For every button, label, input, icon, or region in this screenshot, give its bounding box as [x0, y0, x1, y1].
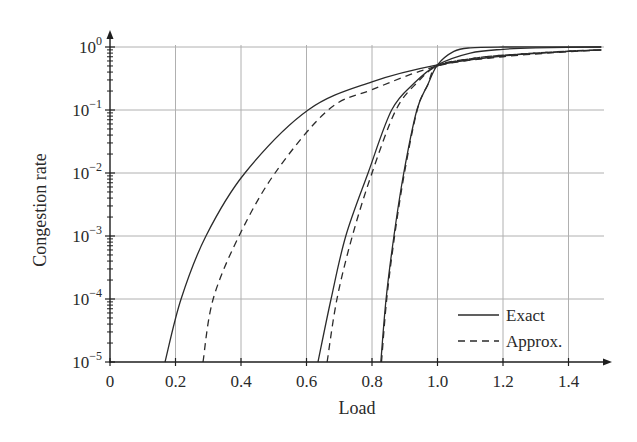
x-axis-ticks: 00.20.40.60.81.01.21.4 — [106, 358, 580, 391]
y-tick-label: 10−5 — [72, 349, 102, 372]
legend-label-approx: Approx. — [506, 332, 562, 351]
x-tick-label: 1.4 — [558, 372, 580, 391]
x-tick-label: 0.4 — [230, 372, 252, 391]
y-tick-label: 10−3 — [72, 223, 102, 246]
x-tick-label: 0.6 — [296, 372, 317, 391]
x-tick-label: 1.0 — [427, 372, 448, 391]
y-tick-label: 10−1 — [72, 97, 102, 120]
legend: Exact Approx. — [458, 306, 562, 351]
y-axis-title: Congestion rate — [30, 153, 50, 266]
chart: 00.20.40.60.81.01.21.4 10−510−410−310−21… — [0, 0, 637, 442]
y-tick-label: 100 — [79, 34, 102, 57]
x-tick-label: 0.8 — [361, 372, 382, 391]
legend-label-exact: Exact — [506, 306, 545, 325]
x-tick-label: 0 — [106, 372, 115, 391]
x-tick-label: 1.2 — [492, 372, 513, 391]
x-axis-title: Load — [339, 398, 376, 418]
y-axis-ticks: 10−510−410−310−210−1100 — [72, 34, 115, 372]
x-axis-arrow-icon — [603, 359, 612, 366]
y-tick-label: 10−2 — [72, 160, 102, 183]
y-tick-label: 10−4 — [72, 286, 102, 309]
y-axis-arrow-icon — [107, 30, 114, 39]
x-tick-label: 0.2 — [165, 372, 186, 391]
